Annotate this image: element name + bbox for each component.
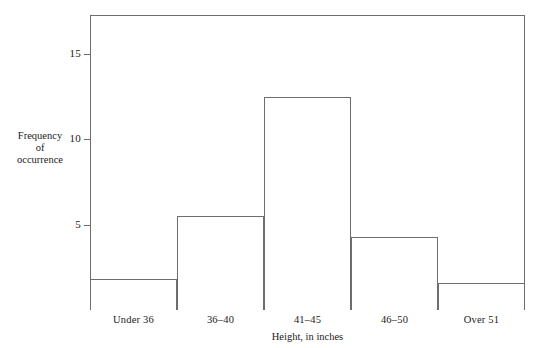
y-axis-title-line-1: Frequency xyxy=(2,130,78,142)
x-axis-category-label: Under 36 xyxy=(90,313,177,327)
y-axis-tick-label: 5 xyxy=(53,219,81,230)
x-axis-title: Height, in inches xyxy=(90,330,525,343)
y-axis-title-line-2: of xyxy=(2,142,78,154)
histogram-bar xyxy=(264,97,351,310)
y-axis-tick-label: 15 xyxy=(53,48,81,59)
histogram-bar xyxy=(177,216,264,310)
x-axis-category-label: 36–40 xyxy=(177,313,264,327)
x-axis-category-label: 46–50 xyxy=(351,313,438,327)
x-axis-category-label: 41–45 xyxy=(264,313,351,327)
y-axis-title: Frequency of occurrence xyxy=(2,130,78,166)
x-axis-category-label: Over 51 xyxy=(438,313,525,327)
histogram-bar xyxy=(438,283,525,310)
histogram-bar xyxy=(90,279,177,310)
histogram-figure: 51015 Frequency of occurrence Under 3636… xyxy=(0,0,535,348)
y-axis-title-line-3: occurrence xyxy=(2,154,78,166)
x-axis-tick-labels: Under 3636–4041–4546–50Over 51 xyxy=(90,313,525,329)
histogram-bar xyxy=(351,237,438,310)
bars-layer xyxy=(90,15,525,310)
